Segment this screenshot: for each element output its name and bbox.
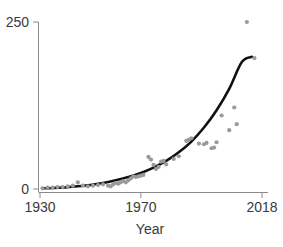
data-point	[81, 184, 85, 188]
data-point	[151, 163, 155, 167]
scatter-plot: 0250 193019702018 Year	[0, 0, 283, 247]
data-point	[66, 184, 70, 188]
data-point	[156, 165, 160, 169]
data-point	[197, 141, 201, 145]
exponential-trend-line	[43, 57, 252, 189]
x-tick-label: 2018	[246, 199, 277, 215]
data-point	[61, 185, 65, 189]
data-point	[204, 141, 208, 145]
data-point	[232, 105, 236, 109]
data-point	[162, 159, 166, 163]
y-tick-label: 0	[21, 181, 29, 197]
y-axis-ticks: 0250	[6, 14, 39, 197]
data-point	[96, 183, 100, 187]
data-point	[235, 122, 239, 126]
chart-container: 0250 193019702018 Year	[0, 0, 283, 247]
x-tick-label: 1930	[24, 199, 55, 215]
data-point	[45, 186, 49, 190]
data-point	[212, 145, 216, 149]
data-point	[101, 182, 105, 186]
data-point	[86, 184, 90, 188]
data-point	[214, 140, 218, 144]
data-point	[141, 173, 145, 177]
data-point	[227, 128, 231, 132]
x-axis-ticks: 193019702018	[24, 193, 277, 216]
data-point	[252, 56, 256, 60]
data-point	[149, 158, 153, 162]
data-point	[164, 162, 168, 166]
y-tick-label: 250	[6, 14, 30, 30]
data-point	[177, 154, 181, 158]
data-point	[189, 136, 193, 140]
data-point	[172, 157, 176, 161]
x-axis-title: Year	[136, 221, 165, 237]
data-points-group	[40, 20, 256, 191]
x-tick-label: 1970	[125, 199, 156, 215]
data-point	[40, 186, 44, 190]
data-point	[91, 184, 95, 188]
trend-line-group	[43, 57, 252, 189]
data-point	[71, 184, 75, 188]
data-point	[220, 113, 224, 117]
data-point	[51, 186, 55, 190]
data-point	[56, 185, 60, 189]
data-point	[245, 20, 249, 24]
data-point	[76, 180, 80, 184]
